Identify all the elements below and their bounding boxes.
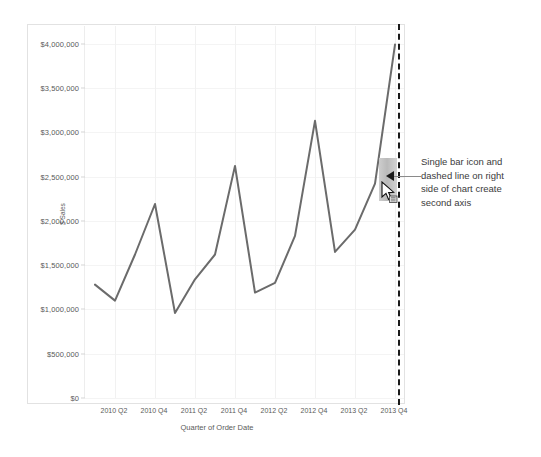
x-tick-label: 2010 Q2 [101,407,128,414]
annotation-line: Single bar icon and [421,155,537,169]
second-axis-drop-line[interactable] [398,24,400,405]
y-tick-label: $3,500,000 [40,84,85,93]
x-tick-label: 2012 Q4 [301,407,328,414]
y-tick-label: $1,500,000 [40,261,85,270]
y-tick-label: $2,500,000 [40,172,85,181]
annotation-callout: Single bar icon and dashed line on right… [421,155,537,209]
x-tick-label: 2010 Q4 [141,407,168,414]
annotation-line: side of chart create [421,182,537,196]
annotation-line: second axis [421,196,537,210]
x-tick-label: 2011 Q4 [221,407,247,414]
x-tick-label: 2013 Q2 [341,407,368,414]
y-tick-label: $2,000,000 [40,216,85,225]
annotation-arrow-icon [386,171,394,181]
drag-cursor-icon [380,181,398,203]
annotation-leader-line [393,176,421,177]
y-tick-label: $1,000,000 [40,305,85,314]
x-axis-title: Quarter of Order Date [28,423,406,432]
y-tick-label: $4,000,000 [40,39,85,48]
chart-container[interactable]: $ Sales $0$500,000$1,000,000$1,500,000$2… [27,24,405,404]
line-series [85,26,405,398]
annotation-line: dashed line on right [421,169,537,183]
x-tick-label: 2011 Q2 [181,407,207,414]
series-polyline [95,45,395,313]
plot-area[interactable]: $0$500,000$1,000,000$1,500,000$2,000,000… [84,26,404,398]
y-tick-label: $3,000,000 [40,128,85,137]
x-tick-label: 2013 Q4 [381,407,408,414]
y-tick-label: $500,000 [47,349,85,358]
x-tick-label: 2012 Q2 [261,407,288,414]
gridline-horizontal [85,398,404,399]
